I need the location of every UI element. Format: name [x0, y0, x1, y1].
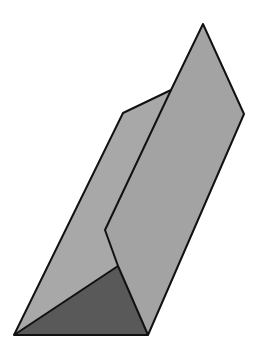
folded-prism-figure — [0, 0, 260, 360]
diagram-canvas — [0, 0, 260, 360]
